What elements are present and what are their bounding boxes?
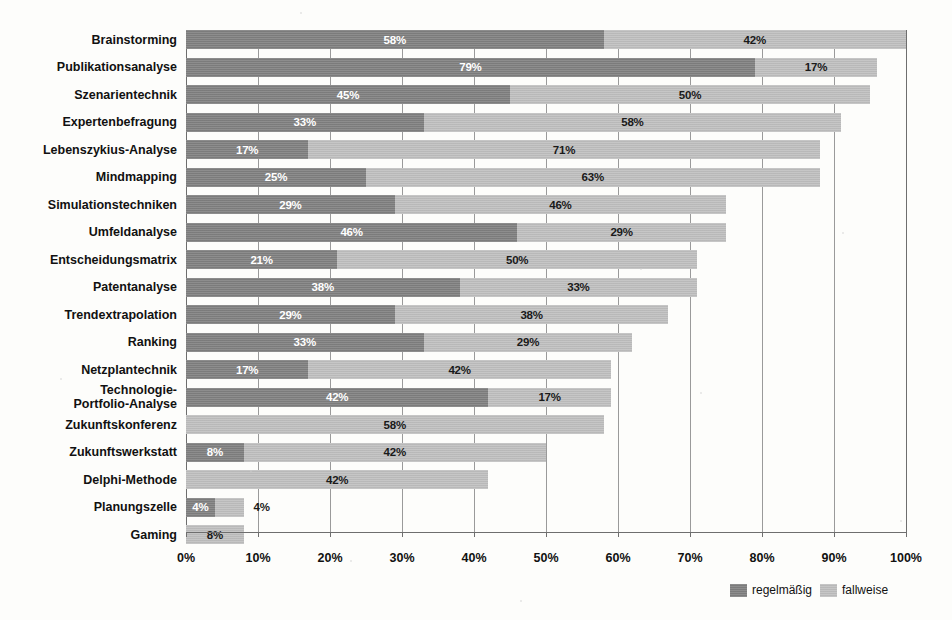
scan-artifact bbox=[520, 600, 522, 602]
bar-row: Entscheidungsmatrix21%50% bbox=[186, 250, 906, 269]
bar-value-label-regelmaessig: 17% bbox=[236, 364, 258, 376]
bar-value-label-fallweise: 17% bbox=[538, 391, 560, 403]
x-tick-label: 20% bbox=[317, 551, 342, 565]
category-label: Netzplantechnik bbox=[81, 363, 177, 376]
category-label: Expertenbefragung bbox=[62, 116, 177, 129]
scan-artifact bbox=[842, 232, 844, 234]
bar-value-label-regelmaessig: 25% bbox=[265, 171, 287, 183]
legend-entry: regelmäßig bbox=[730, 583, 812, 597]
bar-row: Planungszelle4%4% bbox=[186, 498, 906, 517]
scan-artifact bbox=[60, 378, 62, 380]
legend-swatch-icon bbox=[820, 584, 837, 597]
tick-mark bbox=[474, 532, 475, 537]
category-label: Zukunftswerkstatt bbox=[69, 446, 177, 459]
bar-value-label-fallweise: 29% bbox=[517, 336, 539, 348]
bar-value-label-fallweise: 50% bbox=[679, 89, 701, 101]
bar-value-label-fallweise: 42% bbox=[744, 34, 766, 46]
bar-value-label-fallweise: 50% bbox=[506, 254, 528, 266]
category-label: Planungszelle bbox=[94, 501, 177, 514]
gridline-100pct bbox=[906, 30, 907, 532]
scan-artifact bbox=[120, 128, 122, 130]
tick-mark bbox=[906, 532, 907, 537]
bar-value-label-fallweise: 17% bbox=[805, 61, 827, 73]
bar-row: Delphi-Methode42% bbox=[186, 470, 906, 489]
scan-artifact bbox=[350, 560, 352, 562]
bar-value-label-regelmaessig: 45% bbox=[337, 89, 359, 101]
bar-value-label-fallweise: 71% bbox=[553, 144, 575, 156]
scan-artifact bbox=[700, 392, 702, 394]
tick-mark bbox=[690, 532, 691, 537]
category-label: Umfeldanalyse bbox=[89, 226, 177, 239]
bar-row: Ranking33%29% bbox=[186, 333, 906, 352]
x-tick-label: 80% bbox=[749, 551, 774, 565]
bar-value-label-fallweise: 38% bbox=[520, 309, 542, 321]
category-label: Ranking bbox=[128, 336, 177, 349]
bar-value-label-fallweise: 58% bbox=[384, 419, 406, 431]
bar-row: Publikationsanalyse79%17% bbox=[186, 58, 906, 77]
bar-row: Technologie-Portfolio-Analyse42%17% bbox=[186, 388, 906, 407]
bar-value-label-regelmaessig: 21% bbox=[250, 254, 272, 266]
bar-value-label-fallweise: 42% bbox=[384, 446, 406, 458]
bar-row: Trendextrapolation29%38% bbox=[186, 305, 906, 324]
x-tick-label: 70% bbox=[677, 551, 702, 565]
bar-value-label-regelmaessig: 46% bbox=[340, 226, 362, 238]
bar-value-label-fallweise: 4% bbox=[253, 501, 269, 513]
tick-mark bbox=[186, 532, 187, 537]
category-label: Publikationsanalyse bbox=[57, 61, 177, 74]
x-tick-label: 0% bbox=[177, 551, 195, 565]
scan-artifact bbox=[300, 12, 302, 14]
x-tick-label: 100% bbox=[890, 551, 922, 565]
bar-row: Expertenbefragung33%58% bbox=[186, 113, 906, 132]
bar-value-label-regelmaessig: 8% bbox=[207, 446, 223, 458]
tick-mark bbox=[762, 532, 763, 537]
x-tick-label: 10% bbox=[245, 551, 270, 565]
plot-area: Brainstorming58%42%Publikationsanalyse79… bbox=[186, 30, 906, 532]
tick-mark bbox=[618, 532, 619, 537]
bar-row: Simulationstechniken29%46% bbox=[186, 195, 906, 214]
bar-value-label-fallweise: 8% bbox=[207, 529, 223, 541]
category-label: Gaming bbox=[130, 528, 177, 541]
bar-row: Mindmapping25%63% bbox=[186, 168, 906, 187]
bar-row: Patentanalyse38%33% bbox=[186, 278, 906, 297]
legend-entry: fallweise bbox=[820, 583, 888, 597]
bar-value-label-fallweise: 42% bbox=[326, 474, 348, 486]
category-label: Brainstorming bbox=[92, 33, 177, 46]
tick-mark bbox=[330, 532, 331, 537]
bar-value-label-fallweise: 63% bbox=[582, 171, 604, 183]
bar-row: Zukunftswerkstatt8%42% bbox=[186, 443, 906, 462]
bar-row: Zukunftskonferenz58% bbox=[186, 415, 906, 434]
bar-value-label-regelmaessig: 17% bbox=[236, 144, 258, 156]
category-label: Entscheidungsmatrix bbox=[50, 253, 177, 266]
tick-mark bbox=[402, 532, 403, 537]
scan-artifact bbox=[250, 470, 252, 472]
bar-value-label-regelmaessig: 33% bbox=[294, 116, 316, 128]
bar-value-label-regelmaessig: 33% bbox=[294, 336, 316, 348]
category-label: Patentanalyse bbox=[93, 281, 177, 294]
chart-legend: regelmäßigfallweise bbox=[730, 583, 888, 597]
bar-value-label-fallweise: 58% bbox=[621, 116, 643, 128]
category-label: Lebenszykius-Analyse bbox=[43, 143, 177, 156]
bar-value-label-regelmaessig: 4% bbox=[192, 501, 208, 513]
bar-value-label-fallweise: 33% bbox=[567, 281, 589, 293]
category-label: Mindmapping bbox=[96, 171, 177, 184]
x-tick-label: 40% bbox=[461, 551, 486, 565]
x-tick-label: 90% bbox=[821, 551, 846, 565]
category-label: Szenarientechnik bbox=[74, 88, 177, 101]
bar-value-label-regelmaessig: 42% bbox=[326, 391, 348, 403]
category-label: Trendextrapolation bbox=[64, 308, 177, 321]
category-label: Delphi-Methode bbox=[83, 473, 177, 486]
legend-label: regelmäßig bbox=[752, 583, 812, 597]
legend-label: fallweise bbox=[842, 583, 888, 597]
bar-value-label-regelmaessig: 29% bbox=[279, 199, 301, 211]
bar-value-label-fallweise: 29% bbox=[610, 226, 632, 238]
x-tick-label: 60% bbox=[605, 551, 630, 565]
category-label: Technologie-Portfolio-Analyse bbox=[7, 384, 177, 411]
bar-row: Szenarientechnik45%50% bbox=[186, 85, 906, 104]
scan-artifact bbox=[900, 520, 902, 522]
scan-artifact bbox=[640, 268, 642, 270]
tick-mark bbox=[834, 532, 835, 537]
bar-segment-fallweise bbox=[215, 498, 244, 517]
tick-mark bbox=[546, 532, 547, 537]
bar-row: Lebenszykius-Analyse17%71% bbox=[186, 140, 906, 159]
bar-row: Netzplantechnik17%42% bbox=[186, 360, 906, 379]
